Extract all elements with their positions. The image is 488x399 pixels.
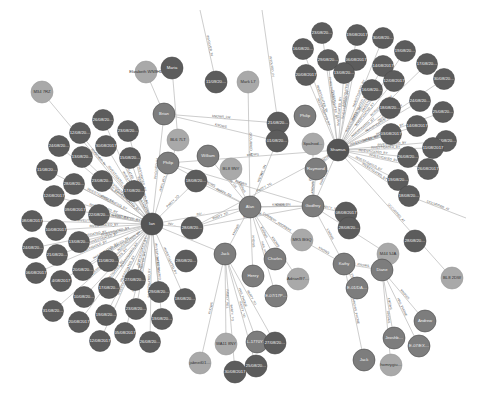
hub-node-godfrey[interactable]: Godfrey <box>302 195 324 217</box>
event-node[interactable]: 20/08/2017 <box>296 65 318 86</box>
event-node[interactable]: 21/08/20… <box>47 245 68 266</box>
event-node[interactable]: 19/08/2017 <box>347 25 369 46</box>
person-node[interactable]: William <box>197 145 219 167</box>
event-node[interactable]: 30/08/2017 <box>224 361 246 383</box>
event-node[interactable]: 28/08/20… <box>64 174 85 195</box>
hub-node-ian[interactable]: Ian <box>141 213 163 235</box>
event-node[interactable]: 24/08/20… <box>49 136 70 157</box>
event-node[interactable]: 18/08/20… <box>380 98 401 119</box>
hub-node-alan[interactable]: Alan <box>239 196 261 218</box>
event-node[interactable]: 26/08/20… <box>93 110 114 131</box>
event-node[interactable]: 24/08/20… <box>23 238 44 259</box>
event-node[interactable]: 13/08/20… <box>334 63 355 84</box>
location-node[interactable]: BL8 2DW <box>441 267 463 289</box>
event-node[interactable]: 23/08/20… <box>312 23 333 44</box>
event-node[interactable]: 23/08/20… <box>126 299 147 320</box>
event-node[interactable]: 28/08/20… <box>404 230 426 252</box>
event-node[interactable]: 05/08/2017 <box>115 323 137 344</box>
location-node[interactable]: M34 7RZ <box>31 81 53 103</box>
event-node[interactable]: 11/08/2017 <box>423 138 444 159</box>
event-node[interactable]: 4/08/2017 <box>51 271 72 292</box>
location-node[interactable]: Mark L7 <box>237 71 259 93</box>
person-node[interactable]: Henry <box>242 265 264 287</box>
event-node[interactable]: 18/08/20… <box>185 170 207 192</box>
event-node[interactable]: 01/08/20… <box>266 130 288 152</box>
event-node[interactable]: 18/08/20… <box>175 289 196 310</box>
hub-node-kathy[interactable]: Kathy <box>333 253 355 275</box>
event-node[interactable]: 19/08/20… <box>395 41 416 62</box>
event-node[interactable]: 28/08/20… <box>338 217 360 239</box>
event-node[interactable]: 25/08/20… <box>245 355 267 377</box>
event-node[interactable]: 30/08/2017 <box>96 136 118 157</box>
event-node[interactable]: 17/08/20… <box>99 278 120 299</box>
person-node[interactable]: E-07/EX… <box>408 335 430 357</box>
event-node[interactable]: 23/08/20… <box>118 121 139 142</box>
event-node[interactable]: 13/08/20… <box>72 147 93 168</box>
person-node[interactable]: Andrew <box>414 310 436 332</box>
event-node[interactable]: 17/08/20… <box>124 181 145 202</box>
hub-node-shamus[interactable]: Shamus <box>327 139 349 161</box>
location-node[interactable]: Elizabeth WN9HD <box>129 61 163 83</box>
event-node[interactable]: 26/08/20… <box>140 332 161 353</box>
event-node[interactable]: 19/08/20… <box>152 309 173 330</box>
event-node[interactable]: 06/08/2017 <box>26 263 48 284</box>
person-node[interactable]: E-01/DA… <box>346 277 368 299</box>
event-node[interactable]: 22/08/20… <box>89 205 110 226</box>
event-node[interactable]: 26/08/20… <box>398 147 419 168</box>
event-node[interactable]: 11/08/20… <box>98 251 119 272</box>
event-node[interactable]: 10/08/20… <box>74 287 95 308</box>
event-node[interactable]: 19/08/20… <box>96 305 117 326</box>
event-node[interactable]: 26/08/2017 <box>418 159 440 180</box>
graph-canvas[interactable]: INVESTIGATED_BYINVESTIGATED_BYINVESTIGAT… <box>0 0 488 399</box>
event-node[interactable]: 29/08/20… <box>149 282 170 303</box>
event-node[interactable]: 14/08/2017 <box>407 116 429 137</box>
event-node[interactable]: 20/08/20… <box>73 260 94 281</box>
event-node[interactable]: 20/08/2017 <box>69 312 91 333</box>
event-node[interactable]: 12/08/20… <box>70 123 91 144</box>
person-node[interactable]: E-07/17P… <box>265 285 287 307</box>
person-node[interactable]: Philip <box>294 105 316 127</box>
event-node[interactable]: 13/08/20… <box>69 232 90 253</box>
event-node[interactable]: 28/08/20… <box>181 217 203 239</box>
event-node[interactable]: 12/08/2017 <box>384 71 406 92</box>
event-node[interactable]: 30/08/20… <box>373 28 394 49</box>
event-node[interactable]: 16/08/20… <box>293 39 314 60</box>
event-node[interactable]: 12/08/2017 <box>90 331 112 352</box>
event-node[interactable]: 12/08/2017 <box>44 186 66 207</box>
location-node[interactable]: BL6 7LT <box>167 129 189 151</box>
hub-node-diane[interactable]: Diane <box>371 259 393 281</box>
event-node[interactable]: 18/08/20… <box>399 186 420 207</box>
person-node[interactable]: Raymond <box>305 158 327 180</box>
location-node[interactable]: homrygiu… <box>380 354 402 376</box>
event-node[interactable]: 30/08/20… <box>434 69 455 90</box>
person-node[interactable]: Brian <box>153 103 175 125</box>
event-node[interactable]: 11/09/20… <box>205 71 227 93</box>
event-node[interactable]: 09/08/2017 <box>65 200 87 221</box>
event-node[interactable]: 10/08/2017 <box>46 220 68 241</box>
hub-node-jack[interactable]: Jack <box>214 243 236 265</box>
location-node[interactable]: jabneil01… <box>189 352 211 374</box>
location-node[interactable]: MK5 BGQ <box>291 229 313 251</box>
event-node[interactable]: 27/08/20… <box>264 332 286 354</box>
event-node[interactable]: 28/08/20… <box>175 250 197 272</box>
event-node[interactable]: 08/08/2017 <box>22 211 44 232</box>
person-node[interactable]: Jack <box>353 349 375 371</box>
person-node[interactable]: Philip <box>157 152 179 174</box>
location-node[interactable]: WA11 8NY <box>215 333 237 355</box>
person-node[interactable]: Jeoshb… <box>383 327 405 349</box>
event-node[interactable]: 17/08/20… <box>417 54 438 75</box>
event-node[interactable]: 15/08/20… <box>120 148 141 169</box>
event-node[interactable]: 03/08/2017 <box>381 124 403 145</box>
event-node[interactable]: 24/08/20… <box>410 91 431 112</box>
event-node[interactable]: 27/08/20… <box>125 270 146 291</box>
location-node[interactable]: BL8 9NY <box>220 158 242 180</box>
location-node[interactable]: Adrianl97… <box>287 268 309 290</box>
location-node[interactable]: Spalnod… <box>302 133 324 155</box>
event-node[interactable]: 16/08/20… <box>362 80 383 101</box>
event-node[interactable]: 23/08/20… <box>92 171 113 192</box>
event-node[interactable]: 11/08/20… <box>37 160 58 181</box>
event-node[interactable]: Maria <box>161 57 183 79</box>
person-node[interactable]: Charles <box>264 248 286 270</box>
event-node[interactable]: 31/08/20… <box>43 301 64 322</box>
event-node[interactable]: 25/08/20… <box>433 102 454 123</box>
